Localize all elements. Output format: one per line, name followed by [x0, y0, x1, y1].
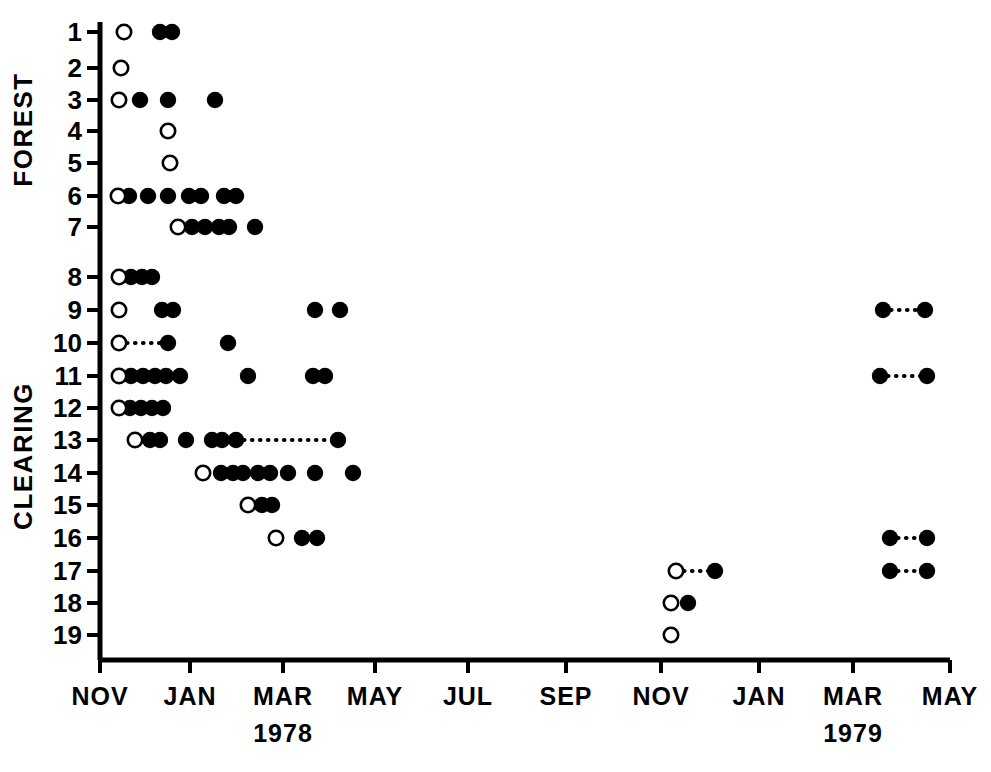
y-tick-label-1: 1: [68, 17, 82, 47]
scatter-chart: 12345678910111213141516171819NOVJANMARMA…: [0, 0, 991, 772]
chart-canvas: 12345678910111213141516171819NOVJANMARMA…: [0, 0, 991, 772]
y-tick-label-5: 5: [68, 148, 82, 178]
y-tick-label-16: 16: [53, 523, 82, 553]
y-tick-label-8: 8: [68, 262, 82, 292]
data-point-filled-row-13: [228, 432, 244, 448]
data-point-filled-row-7: [197, 219, 213, 235]
y-tick-label-14: 14: [53, 458, 82, 488]
data-point-filled-row-3: [160, 92, 176, 108]
group-label-clearing: CLEARING: [8, 382, 38, 530]
year-label-1978: 1978: [253, 719, 313, 747]
x-tick-label-NOV-6: NOV: [632, 682, 689, 710]
data-point-filled-row-6: [193, 188, 209, 204]
data-point-filled-row-1: [164, 24, 180, 40]
data-point-open-row-17: [669, 564, 683, 578]
x-tick-label-SEP-5: SEP: [539, 682, 592, 710]
data-point-open-row-5: [163, 156, 177, 170]
y-tick-label-11: 11: [55, 361, 83, 391]
x-tick-label-MAY-9: MAY: [922, 682, 978, 710]
data-point-filled-row-9: [332, 302, 348, 318]
data-point-filled-row-16: [294, 530, 310, 546]
data-point-filled-row-12: [155, 400, 171, 416]
y-tick-label-9: 9: [68, 295, 82, 325]
data-point-filled-row-13: [178, 432, 194, 448]
y-tick-label-2: 2: [68, 53, 82, 83]
data-point-filled-row-16: [882, 530, 898, 546]
data-point-open-row-14: [196, 466, 210, 480]
x-tick-label-NOV-0: NOV: [71, 682, 128, 710]
data-point-filled-row-15: [264, 497, 280, 513]
group-label-forest: FOREST: [8, 72, 38, 186]
data-point-filled-row-11: [172, 368, 188, 384]
x-tick-label-JAN-7: JAN: [732, 682, 785, 710]
data-point-open-row-10: [112, 336, 126, 350]
data-point-filled-row-6: [140, 188, 156, 204]
data-point-filled-row-14: [262, 465, 278, 481]
data-point-open-row-1: [117, 25, 131, 39]
y-tick-label-18: 18: [53, 588, 82, 618]
data-point-filled-row-13: [330, 432, 346, 448]
data-point-open-row-9: [112, 303, 126, 317]
data-point-open-row-7: [171, 220, 185, 234]
data-point-filled-row-6: [160, 188, 176, 204]
data-point-filled-row-14: [307, 465, 323, 481]
y-tick-label-12: 12: [53, 393, 82, 423]
data-point-open-row-11: [112, 369, 126, 383]
data-point-filled-row-10: [220, 335, 236, 351]
y-tick-label-19: 19: [53, 620, 82, 650]
data-point-open-row-8: [112, 270, 126, 284]
data-point-filled-row-9: [875, 302, 891, 318]
data-point-filled-row-16: [919, 530, 935, 546]
y-tick-label-13: 13: [53, 425, 82, 455]
x-tick-label-MAY-3: MAY: [347, 682, 403, 710]
data-point-filled-row-17: [882, 563, 898, 579]
data-point-filled-row-13: [214, 432, 230, 448]
x-tick-label-MAR-2: MAR: [253, 682, 313, 710]
year-label-1979: 1979: [823, 719, 883, 747]
y-tick-label-17: 17: [53, 556, 82, 586]
data-point-filled-row-14: [280, 465, 296, 481]
data-point-filled-row-11: [158, 368, 174, 384]
y-tick-label-6: 6: [68, 181, 82, 211]
y-tick-label-3: 3: [68, 85, 82, 115]
data-point-filled-row-13: [152, 432, 168, 448]
data-point-filled-row-17: [707, 563, 723, 579]
data-point-open-row-15: [241, 498, 255, 512]
data-point-filled-row-3: [132, 92, 148, 108]
data-point-filled-row-8: [144, 269, 160, 285]
data-point-open-row-2: [114, 61, 128, 75]
data-point-filled-row-9: [307, 302, 323, 318]
data-point-filled-row-11: [919, 368, 935, 384]
x-tick-label-MAR-8: MAR: [823, 682, 883, 710]
y-tick-label-15: 15: [53, 490, 82, 520]
y-tick-label-7: 7: [68, 212, 82, 242]
data-point-filled-row-11: [872, 368, 888, 384]
data-point-open-row-13: [128, 433, 142, 447]
data-point-open-row-19: [664, 628, 678, 642]
data-point-filled-row-9: [165, 302, 181, 318]
data-point-filled-row-14: [235, 465, 251, 481]
data-point-open-row-3: [112, 93, 126, 107]
data-point-filled-row-7: [247, 219, 263, 235]
data-point-filled-row-14: [345, 465, 361, 481]
data-point-filled-row-11: [240, 368, 256, 384]
data-point-filled-row-17: [919, 563, 935, 579]
data-point-filled-row-7: [221, 219, 237, 235]
y-tick-label-4: 4: [68, 116, 83, 146]
data-point-open-row-6: [111, 189, 125, 203]
data-point-filled-row-11: [317, 368, 333, 384]
data-point-open-row-18: [664, 596, 678, 610]
data-point-filled-row-9: [917, 302, 933, 318]
data-point-open-row-12: [112, 401, 126, 415]
data-point-filled-row-18: [680, 595, 696, 611]
data-point-filled-row-3: [207, 92, 223, 108]
data-point-open-row-4: [161, 124, 175, 138]
data-point-filled-row-6: [228, 188, 244, 204]
data-point-filled-row-16: [309, 530, 325, 546]
x-tick-label-JUL-4: JUL: [443, 682, 493, 710]
x-tick-label-JAN-1: JAN: [163, 682, 216, 710]
data-point-filled-row-10: [160, 335, 176, 351]
y-tick-label-10: 10: [53, 328, 82, 358]
data-point-open-row-16: [269, 531, 283, 545]
